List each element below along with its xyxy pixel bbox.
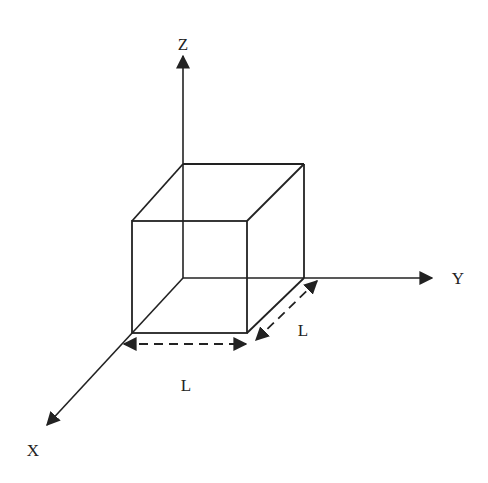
cube [132, 164, 304, 333]
cube-top-left-edge [132, 164, 183, 221]
cube-axes-diagram: Z Y X L L [0, 0, 488, 483]
cube-front-face [132, 221, 247, 333]
depth-edge-length-label: L [298, 321, 308, 340]
z-axis-label: Z [178, 35, 188, 54]
cube-top-right-edge [247, 164, 304, 221]
x-axis-label: X [27, 441, 39, 460]
front-edge-length-label: L [181, 376, 191, 395]
x-axis [47, 278, 183, 425]
cube-bottom-right-edge [247, 278, 304, 333]
y-axis-label: Y [452, 269, 464, 288]
axes [47, 56, 432, 425]
dimension-arrows [124, 281, 317, 344]
